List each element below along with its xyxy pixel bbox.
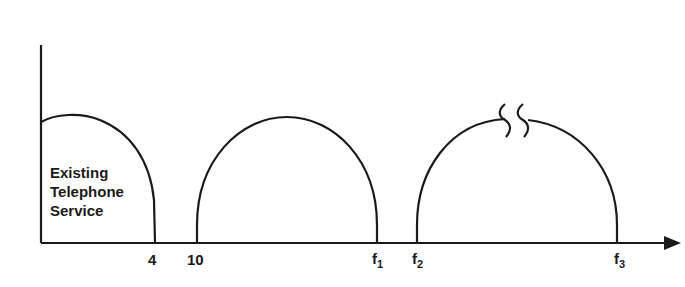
- tick-text: 10: [187, 251, 204, 268]
- band-3-arch-left: [417, 119, 505, 243]
- tick-label-f3: f3: [614, 251, 625, 270]
- x-axis-arrow-icon: [664, 236, 681, 250]
- tick-subscript: 1: [377, 258, 383, 270]
- frequency-band-diagram: [0, 0, 685, 287]
- tick-subscript: 2: [417, 258, 423, 270]
- label-line: Service: [50, 201, 124, 220]
- band-2-arch: [197, 117, 377, 243]
- break-mark-icon: [500, 104, 510, 137]
- existing-telephone-service-label: Existing Telephone Service: [50, 163, 124, 220]
- tick-label-f2: f2: [412, 251, 423, 270]
- label-line: Existing: [50, 163, 124, 182]
- band-3-arch-right: [528, 120, 617, 243]
- tick-text: 4: [148, 251, 156, 268]
- tick-label-f1: f1: [372, 251, 383, 270]
- tick-label-4: 4: [148, 252, 156, 267]
- tick-label-10: 10: [187, 252, 204, 267]
- break-mark-icon: [518, 104, 528, 137]
- label-line: Telephone: [50, 182, 124, 201]
- tick-subscript: 3: [619, 258, 625, 270]
